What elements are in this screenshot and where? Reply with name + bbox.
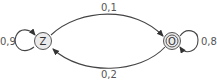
edge-o-to-o: 0,8 (180, 31, 217, 52)
node-o: O (164, 33, 181, 50)
node-o-label: O (168, 36, 176, 47)
edge-o-to-z: 0,2 (53, 47, 165, 80)
node-z: Z (35, 33, 52, 50)
edge-label-o-z: 0,2 (101, 69, 117, 80)
state-diagram: 0,9 0,1 0,2 0,8 Z O (0, 0, 217, 82)
edge-z-to-z: 0,9 (0, 30, 35, 51)
edge-label-z-z: 0,9 (0, 36, 16, 47)
edge-z-to-o: 0,1 (51, 2, 163, 36)
edge-label-o-o: 0,8 (201, 36, 217, 47)
node-z-label: Z (40, 36, 47, 47)
edge-label-z-o: 0,1 (101, 2, 117, 13)
